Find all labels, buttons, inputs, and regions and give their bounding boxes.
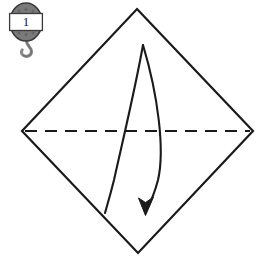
diagram-background	[0, 0, 264, 270]
step-number-label: 1	[23, 14, 30, 29]
diagram-svg: 1	[0, 0, 264, 270]
origami-diagram-canvas: 1	[0, 0, 264, 270]
